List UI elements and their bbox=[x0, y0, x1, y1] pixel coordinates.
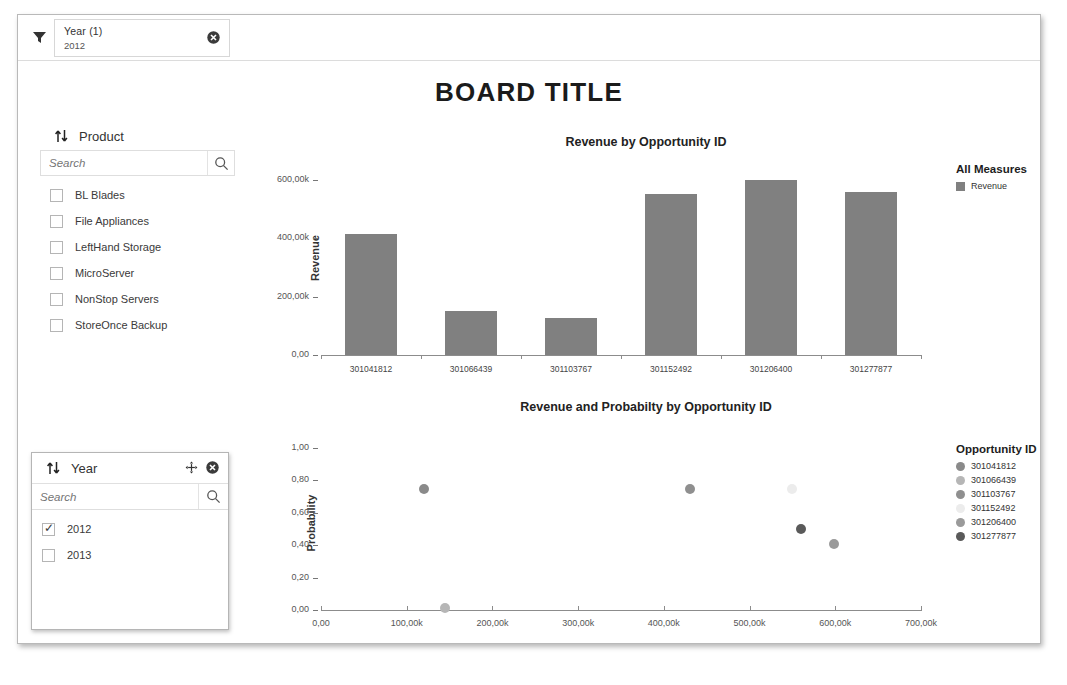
search-input-year[interactable] bbox=[32, 484, 198, 509]
filter-panel-year: Year 2012 2013 bbox=[31, 452, 229, 630]
scatter-point[interactable] bbox=[440, 603, 450, 613]
x-tick-mark bbox=[578, 606, 579, 611]
sort-updown-icon[interactable] bbox=[54, 129, 69, 143]
bar[interactable] bbox=[545, 318, 597, 355]
magnifier-icon[interactable] bbox=[207, 151, 234, 175]
legend-swatch bbox=[956, 504, 965, 513]
legend-label: 301152492 bbox=[971, 503, 1015, 513]
list-item-label: BL Blades bbox=[75, 189, 125, 201]
legend-item[interactable]: 301277877 bbox=[956, 529, 1037, 543]
list-item[interactable]: StoreOnce Backup bbox=[40, 312, 235, 338]
x-tick-label: 700,00k bbox=[891, 618, 951, 628]
panel-title-year: Year bbox=[71, 461, 97, 476]
bar[interactable] bbox=[645, 194, 697, 355]
x-tick-label: 301066439 bbox=[421, 364, 521, 374]
close-icon[interactable] bbox=[206, 460, 219, 473]
x-tick-label: 600,00k bbox=[805, 618, 865, 628]
x-tick-label: 200,00k bbox=[462, 618, 522, 628]
scatter-point[interactable] bbox=[787, 484, 797, 494]
search-row-product[interactable] bbox=[40, 150, 235, 176]
list-item[interactable]: BL Blades bbox=[40, 182, 235, 208]
legend-item[interactable]: 301206400 bbox=[956, 515, 1037, 529]
list-item[interactable]: File Appliances bbox=[40, 208, 235, 234]
checkbox[interactable] bbox=[50, 215, 63, 228]
chart-revenue-probability: Revenue and Probabilty by Opportunity ID… bbox=[251, 400, 1041, 640]
legend-label: 301206400 bbox=[971, 517, 1016, 527]
list-item[interactable]: NonStop Servers bbox=[40, 286, 235, 312]
checkbox[interactable] bbox=[50, 267, 63, 280]
x-axis-line bbox=[321, 610, 921, 611]
bar[interactable] bbox=[445, 311, 497, 355]
chart-title: Revenue by Opportunity ID bbox=[251, 135, 1041, 149]
legend-item[interactable]: 301152492 bbox=[956, 501, 1037, 515]
x-tick-label: 300,00k bbox=[548, 618, 608, 628]
x-tick-mark bbox=[921, 355, 922, 359]
x-tick-mark bbox=[821, 355, 822, 359]
filter-chip-title: Year (1) bbox=[64, 25, 103, 37]
legend-label: 301277877 bbox=[971, 531, 1016, 541]
scatter-point[interactable] bbox=[419, 484, 429, 494]
legend-item[interactable]: 301103767 bbox=[956, 487, 1037, 501]
y-tick-label: 0,00 bbox=[259, 349, 309, 359]
close-icon[interactable] bbox=[207, 30, 220, 43]
legend-item[interactable]: 301066439 bbox=[956, 473, 1037, 487]
checkbox[interactable] bbox=[42, 549, 55, 562]
bar[interactable] bbox=[345, 234, 397, 355]
y-tick-mark bbox=[313, 513, 318, 514]
scatter-point[interactable] bbox=[796, 524, 806, 534]
y-tick-label: 0,60 bbox=[263, 507, 309, 517]
filter-chip-year[interactable]: Year (1) 2012 bbox=[54, 19, 230, 57]
x-tick-label: 400,00k bbox=[634, 618, 694, 628]
legend-swatch bbox=[956, 476, 965, 485]
x-tick-mark bbox=[521, 355, 522, 359]
x-tick-mark bbox=[664, 606, 665, 611]
sort-updown-icon[interactable] bbox=[46, 461, 61, 475]
list-item[interactable]: LeftHand Storage bbox=[40, 234, 235, 260]
y-tick-mark bbox=[313, 180, 318, 181]
legend-item[interactable]: Revenue bbox=[956, 179, 1027, 193]
x-tick-label: 0,00 bbox=[291, 618, 351, 628]
option-list-product: BL Blades File Appliances LeftHand Stora… bbox=[40, 182, 235, 338]
option-list-year: 2012 2013 bbox=[32, 516, 228, 568]
checkbox[interactable] bbox=[42, 523, 55, 536]
list-item[interactable]: 2012 bbox=[32, 516, 228, 542]
legend-opportunity-id: Opportunity ID 301041812 301066439 30110… bbox=[956, 443, 1037, 543]
checkbox[interactable] bbox=[50, 241, 63, 254]
funnel-icon[interactable] bbox=[32, 30, 47, 45]
checkbox[interactable] bbox=[50, 293, 63, 306]
y-tick-label: 600,00k bbox=[259, 174, 309, 184]
x-tick-mark bbox=[421, 355, 422, 359]
axis-label-y: Revenue bbox=[309, 198, 321, 318]
y-tick-label: 0,40 bbox=[263, 539, 309, 549]
x-tick-label: 301041812 bbox=[321, 364, 421, 374]
search-row-year[interactable] bbox=[32, 484, 228, 510]
legend-label: 301103767 bbox=[971, 489, 1015, 499]
y-tick-label: 200,00k bbox=[259, 291, 309, 301]
filter-chip-value: 2012 bbox=[64, 40, 85, 51]
panel-header-year: Year bbox=[32, 453, 228, 484]
list-item[interactable]: 2013 bbox=[32, 542, 228, 568]
legend-swatch bbox=[956, 490, 965, 499]
x-tick-label: 301103767 bbox=[521, 364, 621, 374]
list-item-label: File Appliances bbox=[75, 215, 149, 227]
list-item[interactable]: MicroServer bbox=[40, 260, 235, 286]
scatter-point[interactable] bbox=[829, 539, 839, 549]
bar[interactable] bbox=[845, 192, 897, 355]
checkbox[interactable] bbox=[50, 189, 63, 202]
x-tick-mark bbox=[721, 355, 722, 359]
y-tick-label: 0,20 bbox=[263, 572, 309, 582]
bar[interactable] bbox=[745, 180, 797, 355]
x-tick-mark bbox=[321, 355, 322, 359]
scatter-point[interactable] bbox=[685, 484, 695, 494]
legend-swatch bbox=[956, 532, 965, 541]
legend-item[interactable]: 301041812 bbox=[956, 459, 1037, 473]
x-tick-mark bbox=[921, 606, 922, 611]
move-icon[interactable] bbox=[185, 460, 198, 473]
y-tick-label: 0,80 bbox=[263, 474, 309, 484]
checkbox[interactable] bbox=[50, 319, 63, 332]
search-input-product[interactable] bbox=[41, 151, 207, 175]
legend-title: All Measures bbox=[956, 163, 1027, 175]
magnifier-icon[interactable] bbox=[198, 484, 228, 509]
x-tick-mark bbox=[492, 606, 493, 611]
panel-header-product: Product bbox=[40, 122, 235, 150]
